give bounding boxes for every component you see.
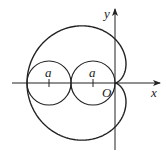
label-x-axis: x (150, 85, 157, 100)
label-a-left: a (45, 65, 52, 80)
label-a-right: a (89, 65, 96, 80)
label-origin: O (102, 85, 112, 100)
label-y-axis: y (102, 6, 110, 21)
cardioid-diagram: a a O x y (0, 0, 166, 156)
